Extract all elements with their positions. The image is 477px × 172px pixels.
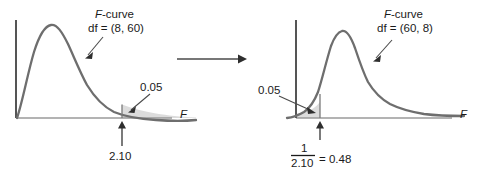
left-curve-label-suffix: -curve [102, 8, 134, 20]
right-cutoff-equals: = 0.48 [319, 153, 351, 165]
right-area-label: 0.05 [258, 84, 280, 96]
right-curve-label-line2: df = (60, 8) [377, 22, 433, 34]
right-curve-label-line1: F-curve [384, 8, 423, 20]
right-cutoff-denominator: 2.10 [291, 157, 313, 169]
left-f-curve [17, 25, 196, 121]
left-curve-label-line1: F-curve [95, 8, 134, 20]
f-distribution-figure: 0.05 F-curve df = (8, 60) F 2.10 [0, 0, 477, 172]
left-cutoff-pointer-arrowhead [118, 121, 126, 129]
right-curve-callout-line [376, 40, 392, 58]
left-axis-label: F [180, 108, 188, 120]
right-area-leader-line [279, 96, 310, 110]
left-area-label: 0.05 [140, 81, 162, 93]
left-cutoff-label: 2.10 [109, 150, 131, 162]
left-curve-callout-line [88, 37, 103, 55]
right-axis-label: F [460, 108, 468, 120]
left-area-leader-line [131, 94, 150, 110]
right-cutoff-numerator: 1 [301, 142, 307, 154]
left-curve-label-line2: df = (8, 60) [88, 22, 144, 34]
right-cutoff-pointer-arrowhead [316, 121, 324, 129]
right-f-curve [287, 31, 464, 118]
right-panel: 0.05 F-curve df = (60, 8) F 1 2.10 = 0.4… [258, 8, 468, 169]
right-curve-label-suffix: -curve [391, 8, 423, 20]
left-panel: 0.05 F-curve df = (8, 60) F 2.10 [16, 8, 196, 162]
figure-svg: 0.05 F-curve df = (8, 60) F 2.10 [0, 0, 477, 172]
transition-arrow-head [238, 55, 247, 64]
transition-arrow [177, 55, 247, 64]
